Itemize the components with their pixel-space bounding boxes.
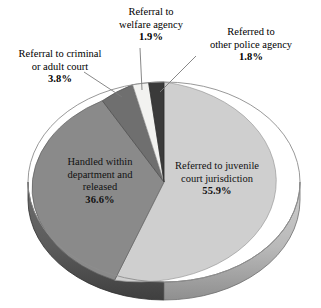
slice-label-other-police: Referred to other police agency 1.8% [186, 26, 316, 64]
slice-label-line-1: Referral to criminal [0, 48, 120, 61]
slice-label-line-2: court jurisdiction [158, 173, 276, 186]
slice-label-line-1: Referral to [96, 6, 206, 19]
slice-label-line-1: Handled within [48, 156, 152, 169]
slice-percent-other-police: 1.8% [186, 51, 316, 64]
slice-label-line-2: department and [48, 169, 152, 182]
slice-label-line-1: Referred to juvenile [158, 160, 276, 173]
slice-label-line-2: or adult court [0, 61, 120, 74]
slice-label-criminal-court: Referral to criminal or adult court 3.8% [0, 48, 120, 86]
slice-label-line-1: Referred to [186, 26, 316, 39]
pie-chart-figure: Referral to welfare agency 1.9% Referred… [0, 0, 321, 308]
slice-label-line-3: released [48, 181, 152, 194]
slice-label-handled-released: Handled within department and released 3… [48, 156, 152, 206]
slice-label-juvenile-court: Referred to juvenile court jurisdiction … [158, 160, 276, 198]
slice-percent-handled-released: 36.6% [48, 194, 152, 207]
slice-percent-juvenile-court: 55.9% [158, 185, 276, 198]
slice-label-line-2: other police agency [186, 39, 316, 52]
slice-percent-criminal-court: 3.8% [0, 73, 120, 86]
